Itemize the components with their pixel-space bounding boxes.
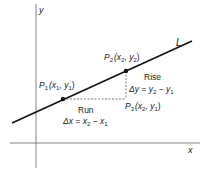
- p3-label: P3(x2, y1): [125, 101, 161, 112]
- p2-label: P2(x2, y2): [104, 52, 140, 63]
- run-formula: Δx = x2 − x1: [62, 116, 108, 127]
- line-l-label: L: [176, 37, 182, 48]
- y-axis-label: y: [38, 5, 44, 15]
- x-axis-label: x: [187, 145, 193, 155]
- point-p1: [61, 97, 65, 101]
- p1-label: P1(x1, y1): [39, 80, 75, 91]
- rise-label: Rise: [144, 72, 161, 82]
- slope-diagram: y x L P1(x1, y1) P2(x2, y2) P3(x2, y1) R…: [0, 0, 204, 172]
- run-label: Run: [78, 105, 94, 115]
- point-p2: [124, 69, 128, 73]
- rise-formula: Δy = y2 − y1: [128, 84, 174, 95]
